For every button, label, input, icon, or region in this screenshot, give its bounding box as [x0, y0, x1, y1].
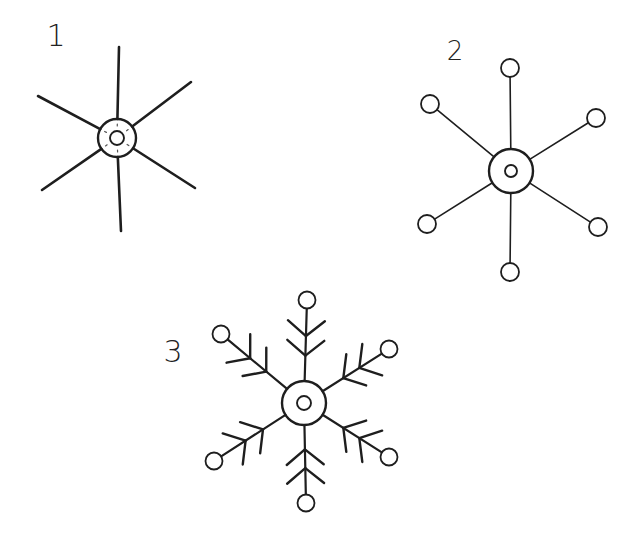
- ring-tick-mark: [127, 130, 129, 131]
- snowflake-branch: [343, 378, 366, 385]
- ring-tick-mark: [105, 131, 107, 132]
- snowflake-arm: [133, 148, 195, 188]
- step-label-3: 3: [163, 334, 182, 369]
- snowflake-branch: [343, 421, 366, 428]
- arm-end-circle: [213, 326, 230, 343]
- arm-end-circle: [421, 95, 439, 113]
- arm-end-circle: [206, 453, 223, 470]
- snowflake-branch: [287, 449, 305, 465]
- arm-end-circle: [501, 59, 519, 77]
- snowflake-branch: [243, 441, 246, 465]
- snowflake-branch: [240, 422, 263, 429]
- snowflake-arm: [38, 96, 100, 129]
- snowflake-branch: [343, 354, 346, 378]
- arm-end-circle: [418, 215, 436, 233]
- center-outer-ring: [282, 381, 326, 425]
- arm-end-circle: [587, 109, 605, 127]
- snowflake-branch: [260, 429, 263, 453]
- snowflake-branch: [227, 358, 251, 362]
- snowflake-branch: [305, 341, 324, 356]
- snowflake-drawing-steps: 1 2 3: [0, 0, 617, 545]
- snowflake-arm: [228, 339, 288, 389]
- snowflake-step-2: [418, 59, 607, 281]
- step-label-1: 1: [46, 18, 65, 53]
- center-inner-ring: [505, 165, 517, 177]
- snowflake-branch: [288, 320, 306, 336]
- snowflake-branch: [359, 344, 362, 368]
- snowflake-step-3: [206, 292, 398, 512]
- arm-end-circle: [381, 449, 398, 466]
- center-inner-ring: [110, 131, 124, 145]
- snowflake-branch: [306, 321, 325, 336]
- center-inner-ring: [297, 396, 311, 410]
- arm-end-circle: [589, 218, 607, 236]
- snowflake-arm: [305, 308, 307, 381]
- snowflake-arm: [117, 47, 119, 119]
- snowflake-arm: [510, 77, 511, 149]
- snowflake-branch: [359, 438, 362, 462]
- snowflake-branch: [359, 368, 382, 375]
- snowflake-branch: [223, 433, 246, 440]
- center-outer-ring: [489, 149, 533, 193]
- snowflake-branch: [287, 340, 305, 356]
- snowflake-branch: [243, 372, 267, 376]
- snowflake-branch: [343, 428, 346, 452]
- arm-end-circle: [501, 263, 519, 281]
- ring-tick-mark: [127, 144, 129, 145]
- snowflake-arm: [435, 183, 493, 219]
- snowflake-arm: [437, 110, 494, 157]
- arm-end-circle: [298, 495, 315, 512]
- snowflake-arm: [304, 425, 305, 495]
- snowflake-arm: [530, 123, 589, 160]
- snowflake-branch: [305, 468, 324, 483]
- snowflake-arm: [529, 183, 590, 222]
- snowflake-branch: [359, 431, 382, 438]
- snowflake-step-1: [38, 47, 195, 231]
- snowflake-branch: [305, 449, 324, 464]
- step-label-2: 2: [447, 36, 464, 66]
- snowflake-arm: [510, 193, 511, 263]
- snowflake-arm: [132, 82, 191, 127]
- snowflake-arm: [118, 157, 121, 231]
- snowflake-arm: [42, 149, 101, 190]
- arm-end-circle: [381, 341, 398, 358]
- ring-tick-mark: [105, 145, 107, 146]
- snowflake-branch: [287, 468, 305, 484]
- arm-end-circle: [299, 292, 316, 309]
